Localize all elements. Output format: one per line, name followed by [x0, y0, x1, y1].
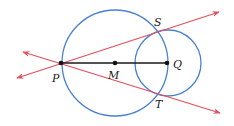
label-Q: Q [173, 58, 182, 71]
label-S: S [154, 16, 162, 29]
geometry-diagram: P M Q S T [0, 0, 234, 126]
point-P [59, 61, 64, 66]
point-Q [165, 61, 170, 66]
label-P: P [51, 72, 60, 85]
label-M: M [107, 69, 120, 82]
point-M [113, 61, 118, 66]
diagram-svg: P M Q S T [0, 0, 234, 126]
label-T: T [155, 98, 164, 111]
